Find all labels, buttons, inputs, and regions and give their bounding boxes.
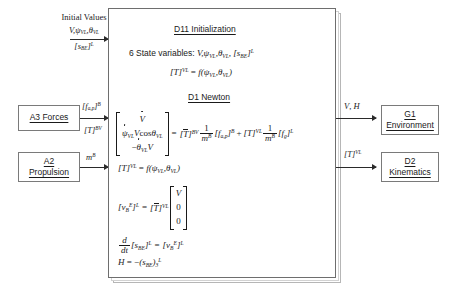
block-a3-forces[interactable]: A3 Forces bbox=[18, 105, 80, 131]
eq3-vec-row-1: V bbox=[176, 187, 182, 201]
lbl-f-sub: a,p bbox=[88, 105, 95, 111]
label-forces-T: [T]BV bbox=[84, 126, 102, 135]
newton-frac2-num: 1 bbox=[266, 124, 275, 133]
sv-theta-sub: VL bbox=[222, 53, 229, 59]
eq3-column-vector: V 0 0 bbox=[170, 186, 188, 230]
newton-row3-V: V bbox=[148, 142, 154, 152]
eq3-T-sym: T bbox=[154, 203, 159, 213]
eq1-f: f bbox=[198, 67, 201, 77]
eq1-T-sup: VL bbox=[182, 67, 189, 73]
eq3-vec-row-3: 0 bbox=[176, 215, 181, 229]
newton-lhs-vector: V ψVLVcosθVL −θVLV bbox=[116, 112, 169, 156]
lbl-m-sup: B bbox=[92, 152, 95, 158]
eq4-rhs: [vBE]L bbox=[163, 241, 184, 250]
lbl-T: T bbox=[87, 125, 92, 135]
eq5-s-sub: BE bbox=[146, 262, 153, 268]
newton-T2-sup: VL bbox=[256, 129, 263, 135]
eq3-equals: = bbox=[142, 203, 147, 212]
block-d2-kinematics-line-2: Kinematics bbox=[389, 167, 431, 178]
arrow-d2-kinematics-head bbox=[372, 164, 377, 170]
diagram-canvas: Initial Values V,ψVL,θVL [sBE]L A3 Force… bbox=[0, 0, 452, 293]
newton-frac1-m-sup: B bbox=[208, 134, 211, 140]
newton-T1: T bbox=[183, 129, 188, 139]
newton-lhs-row-2: ψVLVcosθVL bbox=[122, 127, 163, 141]
section-title-d11-initialization: D11 Initialization bbox=[174, 24, 236, 34]
lbl-T-sup: BV bbox=[95, 125, 101, 131]
newton-f-g-sub: g bbox=[284, 133, 287, 139]
newton-f-ap-sup: B bbox=[231, 129, 234, 135]
eq-altitude: H = −(sBE)3L bbox=[118, 258, 161, 267]
eq4-lhs: [sBE]L bbox=[131, 241, 151, 250]
eq1-equals: = bbox=[191, 67, 196, 77]
arrow-d2-kinematics bbox=[336, 167, 376, 168]
eq4-dt: dt bbox=[119, 245, 130, 255]
newton-equals: = bbox=[172, 129, 177, 138]
eq-velocity-vector: [vBE]L = [T]VL V 0 0 bbox=[118, 186, 187, 230]
newton-frac2-m-sup: B bbox=[272, 134, 275, 140]
lbl-env-H: H bbox=[353, 101, 359, 111]
eq2-T: T bbox=[122, 163, 127, 173]
lbl-kin-T: T bbox=[347, 149, 352, 159]
block-g1-environment-line-2: Environment bbox=[386, 120, 434, 131]
newton-lhs-row-1: V bbox=[140, 113, 146, 127]
eq4-v-brk-sup: L bbox=[180, 241, 183, 247]
label-propulsion-m: mB bbox=[86, 153, 95, 162]
lbl-f-sup: B bbox=[98, 101, 101, 107]
eq4-equals: = bbox=[155, 241, 160, 250]
arrow-initial-values bbox=[70, 39, 108, 40]
newton-lhs-bracket-right bbox=[165, 112, 169, 156]
newton-frac1-num: 1 bbox=[202, 124, 211, 133]
block-a2-propulsion-line-2: Propulsion bbox=[29, 167, 69, 178]
state-vars-prefix: 6 State variables: bbox=[129, 48, 195, 58]
eq2-theta-sub: VL bbox=[170, 168, 177, 174]
newton-T2: T bbox=[247, 128, 252, 138]
newton-f-g-sup: L bbox=[290, 129, 293, 135]
newton-psidot: ψ bbox=[122, 127, 128, 141]
newton-frac-2: 1 mB bbox=[263, 124, 277, 144]
block-a2-propulsion-line-1: A2 bbox=[44, 156, 54, 167]
newton-cos: cos bbox=[140, 128, 152, 138]
newton-frac-1: 1 mB bbox=[200, 124, 214, 144]
eq3-v-sup: E bbox=[129, 203, 132, 209]
eq1-T: T bbox=[174, 67, 179, 77]
eq2-equals: = bbox=[139, 163, 144, 173]
label-env: V, H bbox=[344, 102, 360, 111]
block-a2-propulsion[interactable]: A2 Propulsion bbox=[18, 152, 80, 182]
newton-T1-sup: BV bbox=[192, 129, 199, 135]
eq4-s-sub: BE bbox=[138, 245, 145, 251]
block-d2-kinematics-line-1: D2 bbox=[405, 156, 416, 167]
lbl-kin-T-sup: VL bbox=[355, 149, 361, 155]
block-d2-kinematics[interactable]: D2 Kinematics bbox=[381, 152, 439, 182]
iv-theta-sub: VL bbox=[93, 29, 99, 35]
block-g1-environment[interactable]: G1 Environment bbox=[381, 105, 439, 135]
eq4-d: d bbox=[120, 236, 129, 245]
eq3-T: [T]VL bbox=[150, 203, 169, 213]
eq2-T-sup: VL bbox=[130, 163, 137, 169]
eq5-minus: − bbox=[134, 257, 139, 267]
newton-plus: + bbox=[236, 129, 241, 138]
eq1-psi-sub: VL bbox=[209, 72, 216, 78]
newton-f-g: [fg]L bbox=[278, 129, 293, 138]
eq4-ddt: d dt bbox=[119, 236, 130, 256]
newton-thetadot: θ bbox=[137, 141, 141, 155]
newton-f-ap-sub: a,p bbox=[220, 133, 227, 139]
newton-f-ap: [fa,p]B bbox=[214, 129, 234, 138]
iv-V: V bbox=[69, 25, 73, 35]
newton-frac2-den: mB bbox=[263, 133, 277, 143]
eq3-v-brk-sup: L bbox=[136, 203, 139, 209]
arrow-g1-environment bbox=[336, 118, 376, 119]
newton-term-1: [T]BV bbox=[180, 129, 199, 139]
eq2-f: f bbox=[146, 163, 149, 173]
iv-psi-sub: VL bbox=[80, 29, 86, 35]
eq3-bracket-right bbox=[183, 186, 187, 230]
label-kinematics: [T]VL bbox=[344, 150, 362, 159]
eq1-theta-sub: VL bbox=[222, 72, 229, 78]
section-title-d1-newton: D1 Newton bbox=[188, 92, 230, 102]
sv-s-sup: L bbox=[251, 48, 254, 54]
eq3-vec-row-2: 0 bbox=[176, 201, 181, 215]
main-block-d1-newton[interactable]: D11 Initialization 6 State variables: V,… bbox=[108, 8, 336, 278]
eq-position-derivative: d dt [sBE]L = [vBE]L bbox=[118, 236, 184, 256]
eq5-H: H bbox=[118, 257, 125, 267]
eq5-equals: = bbox=[127, 257, 132, 267]
newton-Vdot: V bbox=[140, 113, 146, 127]
